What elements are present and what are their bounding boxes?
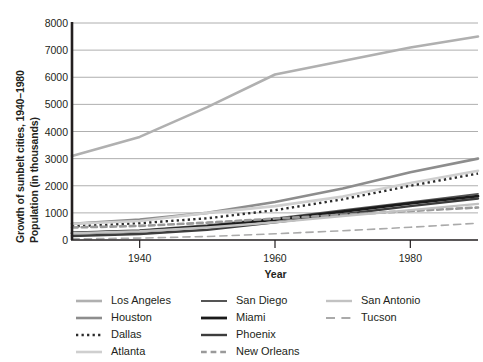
legend-label: Miami [236,312,265,323]
series-line-houston [72,159,478,224]
legend-swatch-icon [326,313,352,323]
legend-swatch-icon [76,296,102,306]
legend-label: San Antonio [361,295,420,306]
legend-swatch-icon [76,313,102,323]
chart-legend: Los AngelesHoustonDallasAtlantaSan Diego… [0,292,483,362]
legend-label: New Orleans [236,346,300,357]
legend-label: Los Angeles [111,295,171,306]
legend-swatch-icon [201,347,227,357]
legend-column: San AntonioTucson [326,292,420,326]
legend-item-houston[interactable]: Houston [76,309,171,326]
legend-item-san-diego[interactable]: San Diego [201,292,300,309]
legend-item-tucson[interactable]: Tucson [326,309,420,326]
series-line-atlanta [72,171,478,224]
legend-column: San DiegoMiamiPhoenixNew Orleans [201,292,300,360]
legend-swatch-icon [201,296,227,306]
legend-item-phoenix[interactable]: Phoenix [201,326,300,343]
legend-label: Dallas [111,329,142,340]
legend-label: Tucson [361,312,397,323]
legend-item-los-angeles[interactable]: Los Angeles [76,292,171,309]
legend-swatch-icon [326,296,352,306]
legend-item-new-orleans[interactable]: New Orleans [201,343,300,360]
legend-swatch-icon [201,313,227,323]
x-tick-label: 1960 [245,252,305,264]
x-tick-label: 1980 [380,252,440,264]
legend-item-dallas[interactable]: Dallas [76,326,171,343]
legend-label: Atlanta [111,346,145,357]
legend-column: Los AngelesHoustonDallasAtlanta [76,292,171,360]
legend-label: San Diego [236,295,287,306]
chart-figure: Growth of sunbelt cities, 1940–1980 Popu… [0,0,483,362]
legend-label: Phoenix [236,329,276,340]
legend-swatch-icon [76,347,102,357]
legend-item-miami[interactable]: Miami [201,309,300,326]
legend-item-atlanta[interactable]: Atlanta [76,343,171,360]
legend-swatch-icon [76,330,102,340]
legend-item-san-antonio[interactable]: San Antonio [326,292,420,309]
legend-swatch-icon [201,330,227,340]
series-line-los-angeles [72,37,478,156]
x-tick-label: 1940 [110,252,170,264]
x-axis-title: Year [34,268,483,280]
legend-label: Houston [111,312,152,323]
